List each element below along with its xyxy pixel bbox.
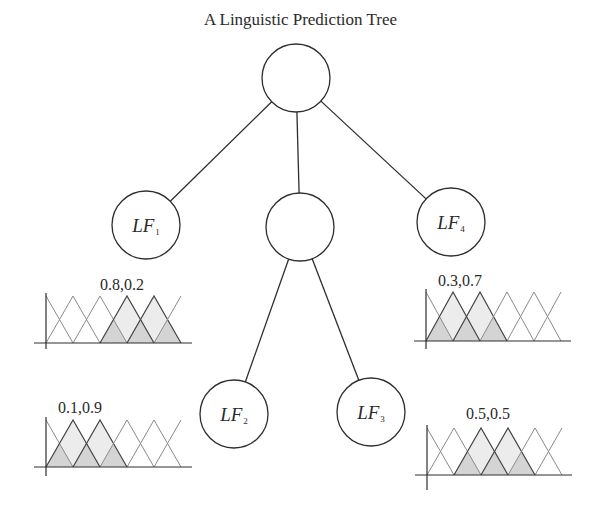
triangular-membership-function <box>127 420 181 467</box>
node-label-text: LF <box>357 402 379 423</box>
node-label-text: LF <box>437 212 459 233</box>
membership-chart-mf-lf2 <box>34 417 192 476</box>
node-label-subscript: 2 <box>243 416 248 426</box>
node-mid <box>266 193 334 261</box>
edge-root-lf4 <box>321 101 426 199</box>
node-label-lf2: LF2 <box>220 404 248 426</box>
membership-function-charts <box>34 289 572 490</box>
edge-mid-lf3 <box>312 259 359 381</box>
node-label-lf3: LF3 <box>357 402 385 424</box>
node-label-subscript: 4 <box>460 224 465 234</box>
node-label-lf4: LF4 <box>437 212 465 234</box>
membership-chart-mf-lf4 <box>414 289 571 349</box>
edge-root-mid <box>297 112 299 193</box>
node-label-lf1: LF1 <box>132 215 160 237</box>
prediction-tree-diagram <box>0 0 601 512</box>
membership-chart-mf-lf1 <box>34 293 192 349</box>
triangular-membership-function <box>507 292 561 341</box>
edge-mid-lf2 <box>245 259 288 382</box>
membership-value-label: 0.5,0.5 <box>466 405 510 423</box>
node-root <box>262 44 330 112</box>
tree-nodes <box>112 44 485 448</box>
membership-value-label: 0.1,0.9 <box>58 399 102 417</box>
edge-root-lf1 <box>170 102 271 201</box>
triangular-membership-function <box>46 296 100 343</box>
node-label-subscript: 3 <box>380 414 385 424</box>
node-label-text: LF <box>132 215 154 236</box>
node-label-subscript: 1 <box>155 227 160 237</box>
node-label-text: LF <box>220 404 242 425</box>
membership-chart-mf-lf3 <box>415 425 572 490</box>
membership-value-label: 0.8,0.2 <box>100 276 144 294</box>
membership-value-label: 0.3,0.7 <box>438 272 482 290</box>
